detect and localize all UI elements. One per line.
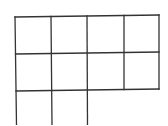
grid-diagram	[0, 0, 168, 125]
grid-line-col1	[51, 17, 52, 126]
grid-line-col2	[87, 16, 88, 125]
grid-drawing	[0, 0, 168, 125]
grid-line-col0	[15, 17, 17, 125]
